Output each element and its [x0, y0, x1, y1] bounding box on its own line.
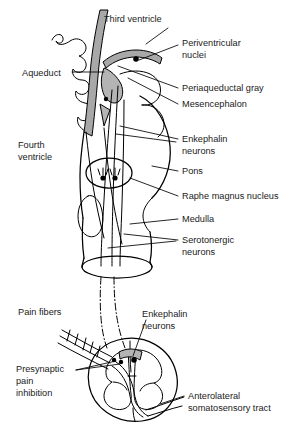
- pons-outline: [140, 96, 170, 198]
- leader-medulla: [130, 219, 178, 224]
- label-fourth-ventricle-line1: Fourth: [18, 140, 45, 150]
- label-third-ventricle: Third ventricle: [104, 14, 162, 24]
- leader-enkephalin-neurons-brain: [120, 126, 178, 139]
- descending-fiber-left: [100, 277, 107, 348]
- label-presynaptic-pain-inhibition-line3: inhibition: [16, 388, 52, 398]
- pain-fiber-3: [58, 343, 108, 369]
- spinal-cord-ventral-fissure: [133, 408, 135, 421]
- raphe-neuron-soma-1: [100, 175, 105, 180]
- descending-fiber-right: [114, 277, 125, 348]
- pain-fiber-hatch-marks: [67, 330, 100, 357]
- leader-raphe-magnus: [130, 178, 178, 196]
- second-order-axon: [116, 362, 148, 416]
- tegmentum-shade: [100, 104, 110, 126]
- label-periventricular-nuclei-line2: nuclei: [182, 50, 206, 60]
- leader-mesencephalon: [128, 78, 178, 104]
- leader-periaqueductal-gray: [118, 66, 178, 88]
- label-periaqueductal-gray: Periaqueductal gray: [182, 83, 264, 93]
- label-fourth-ventricle-line2: ventricle: [18, 152, 52, 162]
- anterolateral-tract-fiber-2: [146, 397, 184, 410]
- leader-serotonergic-neurons-2: [108, 241, 176, 248]
- midbrain-contour-2: [142, 105, 164, 137]
- medulla-left-border: [82, 218, 84, 258]
- label-medulla: Medulla: [182, 214, 215, 224]
- label-serotonergic-neurons-line1: Serotonergic: [182, 235, 234, 245]
- label-mesencephalon: Mesencephalon: [182, 99, 247, 109]
- presynaptic-terminal-2: [119, 360, 123, 364]
- diagram-canvas: Third ventricle Periventricular nuclei A…: [0, 0, 304, 429]
- leader-pons: [152, 166, 178, 171]
- enkephalin-interneuron-soma: [131, 357, 137, 363]
- label-enkephalin-neurons-brain-line1: Enkephalin: [182, 134, 227, 144]
- label-enkephalin-neurons-brain-line2: neurons: [182, 146, 216, 156]
- medulla-cut-ellipse: [82, 256, 152, 278]
- label-periventricular-nuclei-line1: Periventricular: [182, 38, 241, 48]
- enkephalin-neuron-dot-midbrain: [133, 56, 139, 62]
- label-anterolateral-tract-line1: Anterolateral: [188, 391, 240, 401]
- medulla-cut-right-edge: [150, 262, 152, 267]
- label-pons: Pons: [182, 166, 203, 176]
- pons-medulla-junction: [143, 198, 152, 232]
- label-aqueduct: Aqueduct: [22, 68, 61, 78]
- descending-tract-c: [120, 100, 124, 266]
- label-enkephalin-neurons-cord-line1: Enkephalin: [142, 309, 187, 319]
- label-anterolateral-tract-line2: somatosensory tract: [188, 403, 271, 413]
- raphe-neuron-dendrites-1: [98, 168, 108, 175]
- gray-matter-fold-left: [113, 382, 127, 390]
- label-presynaptic-pain-inhibition-line1: Presynaptic: [16, 364, 64, 374]
- gray-matter-left-horn: [104, 350, 131, 410]
- periventricular-nuclei-shape: [103, 50, 162, 68]
- midbrain-contour: [120, 71, 161, 105]
- analgesia-system-diagram: Third ventricle Periventricular nuclei A…: [0, 0, 304, 429]
- label-raphe-magnus-nucleus: Raphe magnus nucleus: [182, 191, 279, 201]
- leader-third-ventricle: [146, 28, 168, 44]
- leader-enkephalin-neurons-brain-2: [116, 134, 176, 142]
- label-enkephalin-neurons-cord-line2: neurons: [142, 321, 176, 331]
- label-serotonergic-neurons-line2: neurons: [182, 247, 216, 257]
- periventricular-neuron-dot: [104, 97, 108, 101]
- medulla-cut-left-edge: [82, 258, 84, 267]
- label-pain-fibers: Pain fibers: [18, 307, 62, 317]
- pain-fiber-1: [62, 330, 112, 357]
- gray-matter-fold-right: [140, 383, 154, 391]
- raphe-neuron-soma-2: [112, 175, 117, 180]
- label-presynaptic-pain-inhibition-line2: pain: [16, 376, 33, 386]
- raphe-neuron-dendrites-2: [110, 168, 120, 175]
